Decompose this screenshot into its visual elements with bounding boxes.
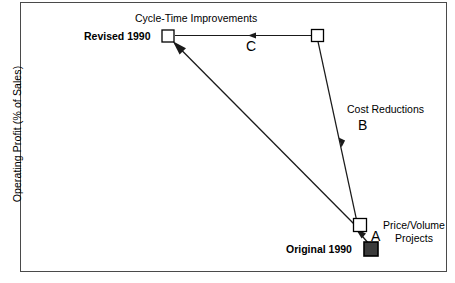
- label-cycle-time-improvements: Cycle-Time Improvements: [135, 12, 257, 24]
- label-arrow-key-a: A: [371, 228, 380, 245]
- label-arrow-key-c: C: [246, 38, 256, 55]
- label-price-volume-projects: Price/Volume Projects: [381, 219, 447, 245]
- label-arrow-key-b: B: [358, 117, 367, 134]
- y-axis-title: Operating Profit (% of Sales): [11, 39, 23, 229]
- label-cost-reductions: Cost Reductions: [347, 103, 424, 115]
- diagram-root: Operating Profit (% of Sales) Cycle-Time: [0, 0, 455, 283]
- label-revised-1990: Revised 1990: [84, 30, 151, 42]
- label-price-volume-line1: Price/Volume: [383, 219, 445, 231]
- label-original-1990: Original 1990: [286, 243, 352, 255]
- label-price-volume-line2: Projects: [395, 232, 433, 244]
